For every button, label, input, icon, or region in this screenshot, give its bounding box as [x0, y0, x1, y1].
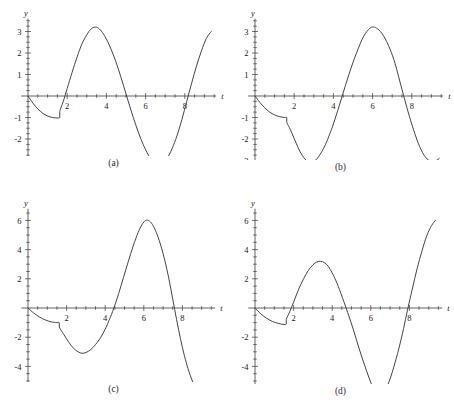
y-tick-label: -2 — [14, 134, 21, 144]
x-tick-label: 4 — [104, 101, 109, 111]
x-tick-label: 2 — [65, 101, 69, 111]
x-tick-label: 6 — [142, 313, 146, 323]
plot-a: ty2468321-1-2-3 — [0, 4, 227, 156]
x-tick-label: 8 — [410, 101, 414, 111]
panel-d-caption: (d) — [227, 386, 454, 396]
y-tick-label: 6 — [244, 216, 248, 226]
plot-b: ty2468321-1-2-3 — [227, 4, 454, 160]
x-tick-label: 4 — [330, 313, 335, 323]
panel-b-caption: (b) — [227, 162, 454, 172]
y-tick-label: 2 — [244, 274, 248, 284]
y-axis-label: y — [23, 8, 28, 18]
x-tick-label: 2 — [64, 313, 68, 323]
x-axis-label: t — [448, 91, 451, 101]
y-tick-label: 2 — [17, 48, 21, 58]
y-tick-label: 3 — [244, 27, 248, 37]
figure-sheet: ty2468321-1-2-3 (a) ty2468321-1-2-3 (b) … — [0, 0, 454, 412]
y-tick-label: -4 — [241, 362, 249, 372]
x-axis-label: t — [221, 91, 224, 101]
x-tick-label: 6 — [143, 101, 147, 111]
panel-a: ty2468321-1-2-3 — [0, 4, 227, 156]
x-tick-label: 6 — [369, 313, 373, 323]
y-axis-label: y — [250, 8, 255, 18]
y-tick-label: -1 — [14, 113, 21, 123]
y-tick-label: -2 — [241, 332, 248, 342]
y-tick-label: -3 — [241, 156, 248, 160]
y-tick-label: -4 — [14, 362, 22, 372]
y-tick-label: -1 — [241, 113, 248, 123]
x-tick-label: 4 — [331, 101, 336, 111]
curve-a — [28, 27, 211, 156]
curve-d — [255, 220, 435, 384]
y-tick-label: 2 — [244, 48, 248, 58]
x-axis-label: t — [220, 303, 223, 313]
y-tick-label: 6 — [17, 216, 21, 226]
panel-c-caption: (c) — [0, 384, 227, 394]
x-tick-label: 8 — [407, 313, 411, 323]
panel-d: ty2468642-2-4-6 — [227, 186, 454, 384]
x-tick-label: 6 — [370, 101, 374, 111]
x-tick-label: 8 — [180, 313, 184, 323]
curve-c — [28, 220, 211, 382]
x-tick-label: 2 — [291, 313, 295, 323]
panel-a-caption: (a) — [0, 158, 227, 168]
x-axis-label: t — [447, 303, 450, 313]
y-tick-label: 1 — [17, 70, 21, 80]
y-tick-label: -2 — [241, 134, 248, 144]
y-tick-label: 1 — [244, 70, 248, 80]
y-tick-label: 3 — [17, 27, 21, 37]
y-axis-label: y — [23, 198, 28, 208]
panel-c: ty2468642-2-4-6 — [0, 186, 227, 382]
y-axis-label: y — [250, 198, 255, 208]
panel-b: ty2468321-1-2-3 — [227, 4, 454, 160]
plot-c: ty2468642-2-4-6 — [0, 186, 227, 382]
plot-d: ty2468642-2-4-6 — [227, 186, 454, 384]
y-tick-label: 4 — [17, 245, 22, 255]
x-tick-label: 4 — [103, 313, 108, 323]
x-tick-label: 2 — [292, 101, 296, 111]
y-tick-label: -2 — [14, 332, 21, 342]
y-tick-label: 2 — [17, 274, 21, 284]
y-tick-label: 4 — [244, 245, 249, 255]
